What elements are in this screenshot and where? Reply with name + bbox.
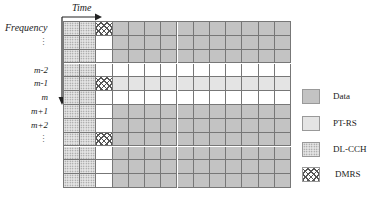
grid-cell-data (113, 22, 129, 36)
row-label: m+2 (18, 120, 48, 130)
grid-cell-data (129, 174, 145, 188)
grid-cell-data (275, 133, 291, 147)
grid-cell-data (259, 133, 275, 147)
legend-swatch-ptrs (302, 116, 320, 131)
grid-cell-empty (275, 91, 291, 105)
grid-cell-data (161, 119, 177, 133)
grid-cell-data (242, 105, 258, 119)
grid-cell-data (113, 133, 129, 147)
grid-cell-data (129, 105, 145, 119)
grid-cell-data (161, 160, 177, 174)
grid-cell-empty (113, 64, 129, 78)
grid-cell-data (194, 50, 210, 64)
grid-cell-data (129, 22, 145, 36)
grid-cell-data (275, 174, 291, 188)
grid-cell-data (275, 105, 291, 119)
grid-cell-ptrs (145, 77, 161, 91)
grid-cell-data (210, 22, 226, 36)
grid-cell-data (226, 50, 242, 64)
grid-cell-dlcch (64, 91, 80, 105)
grid-cell-ptrs (210, 77, 226, 91)
grid-cell-data (161, 174, 177, 188)
frequency-axis-label: Frequency (5, 22, 47, 33)
grid-cell-data (129, 160, 145, 174)
legend-label-dmrs: DMRS (335, 169, 361, 179)
grid-cell-empty (226, 64, 242, 78)
grid-cell-dlcch (64, 147, 80, 161)
grid-cell-data (194, 36, 210, 50)
grid-cell-data (210, 36, 226, 50)
grid-cell-empty (178, 64, 194, 78)
grid-cell-dlcch (64, 160, 80, 174)
grid-cell-data (145, 174, 161, 188)
grid-cell-dlcch (80, 160, 96, 174)
grid-cell-data (178, 36, 194, 50)
grid-cell-data (113, 36, 129, 50)
grid-cell-data (113, 105, 129, 119)
grid-cell-dlcch (64, 36, 80, 50)
grid-cell-ptrs (242, 77, 258, 91)
grid-cell-data (210, 50, 226, 64)
grid-cell-data (129, 119, 145, 133)
grid-cell-dlcch (80, 119, 96, 133)
grid-cell-empty (275, 64, 291, 78)
grid-cell-ptrs (161, 77, 177, 91)
grid-cell-empty (96, 50, 112, 64)
grid-cell-empty (210, 64, 226, 78)
grid-cell-data (226, 174, 242, 188)
grid-cell-dlcch (64, 105, 80, 119)
grid-cell-data (113, 160, 129, 174)
grid-cell-empty (96, 119, 112, 133)
grid-cell-empty (113, 91, 129, 105)
grid-cell-data (178, 147, 194, 161)
grid-cell-data (194, 147, 210, 161)
grid-cell-data (113, 119, 129, 133)
grid-cell-dlcch (80, 22, 96, 36)
grid-cell-dlcch (80, 77, 96, 91)
grid-cell-empty (161, 64, 177, 78)
grid-cell-dlcch (64, 50, 80, 64)
legend-swatch-dmrs (302, 167, 320, 182)
grid-cell-data (210, 105, 226, 119)
grid-cell-empty (145, 91, 161, 105)
grid-cell-data (194, 105, 210, 119)
grid-cell-data (113, 174, 129, 188)
grid-cell-dlcch (64, 133, 80, 147)
grid-cell-data (259, 174, 275, 188)
grid-cell-data (259, 119, 275, 133)
grid-cell-data (226, 160, 242, 174)
grid-cell-empty (96, 64, 112, 78)
resource-grid (64, 22, 291, 188)
grid-cell-data (210, 119, 226, 133)
grid-cell-empty (129, 64, 145, 78)
grid-cell-data (145, 22, 161, 36)
grid-cell-data (242, 36, 258, 50)
grid-cell-data (242, 174, 258, 188)
grid-cell-data (259, 147, 275, 161)
grid-cell-empty (96, 160, 112, 174)
grid-cell-empty (161, 91, 177, 105)
grid-cell-data (113, 50, 129, 64)
grid-cell-ptrs (275, 77, 291, 91)
time-arrowhead-icon (95, 14, 102, 21)
grid-cell-data (145, 36, 161, 50)
grid-cell-empty (96, 91, 112, 105)
grid-cell-data (275, 22, 291, 36)
grid-cell-ptrs (194, 77, 210, 91)
grid-cell-data (161, 147, 177, 161)
grid-cell-data (210, 160, 226, 174)
grid-cell-data (161, 105, 177, 119)
grid-cell-data (178, 133, 194, 147)
grid-cell-data (145, 147, 161, 161)
grid-cell-ptrs (113, 77, 129, 91)
grid-cell-dlcch (64, 22, 80, 36)
grid-cell-data (275, 50, 291, 64)
grid-cell-empty (226, 91, 242, 105)
grid-cell-data (275, 119, 291, 133)
grid-cell-dlcch (80, 133, 96, 147)
grid-cell-data (161, 50, 177, 64)
grid-cell-ptrs (178, 77, 194, 91)
grid-cell-data (275, 147, 291, 161)
grid-cell-data (129, 147, 145, 161)
grid-cell-ptrs (259, 77, 275, 91)
